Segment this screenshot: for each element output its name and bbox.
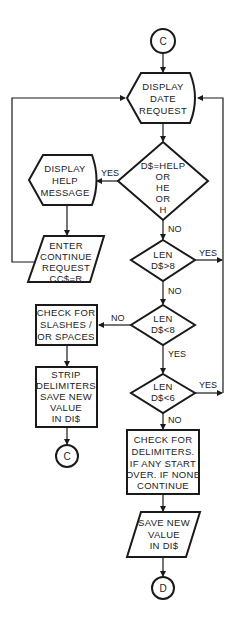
len-lt-8-decision: LEN D$<8 [131,305,195,345]
node-text: SAVE NEW [40,391,92,402]
check-delimiters-node: CHECK FOR DELIMITERS. IF ANY START OVER.… [126,430,201,494]
node-text: SLASHES / [40,319,92,330]
node-text: IN DI$ [52,413,81,424]
node-text: LEN [153,381,172,392]
display-help-message-node: DISPLAY HELP MESSAGE [29,155,97,205]
node-text: VALUE [148,529,180,540]
node-text: D$<8 [151,324,175,335]
node-text: CONTINUE [137,480,189,491]
node-text: OR [156,171,171,182]
flowchart-diagram: C DISPLAY DATE REQUEST D$=HELP OR HE OR … [0,0,247,620]
node-text: DELIMITERS [36,380,96,391]
node-text: LEN [153,313,172,324]
connector-label: D [159,583,166,594]
strip-delimiters-node: STRIP DELIMITERS SAVE NEW VALUE IN DI$ [36,367,97,427]
edge-label-no: NO [111,313,125,323]
edge-label-yes: YES [168,349,186,359]
connector-label: C [63,451,70,462]
connector-label: C [159,36,166,47]
connector-c-start: C [151,29,175,53]
node-text: DELIMITERS. [132,446,195,457]
node-text: OVER. IF NONE [126,469,201,480]
node-text: DISPLAY [44,163,86,174]
node-text: ENTER [49,240,83,251]
edge-label-no: NO [168,415,182,425]
node-text: D$=HELP [141,160,186,171]
edge-label-yes: YES [199,380,217,390]
edge-label-yes: YES [101,168,119,178]
node-text: CC$=R [50,273,83,284]
node-text: LEN [153,249,172,260]
connector-d-end: D [152,577,174,599]
node-text: HE [156,182,170,193]
node-text: IF ANY START [130,458,196,469]
edge-label-no: NO [168,286,182,296]
node-text: IN DI$ [150,540,179,551]
connector-c-loop: C [56,445,78,467]
loop-back-right-arrow [198,98,223,393]
node-text: STRIP [51,369,80,380]
save-new-value-node: SAVE NEW VALUE IN DI$ [127,512,200,557]
edge-label-no: NO [168,224,182,234]
node-text: CHECK FOR [134,434,193,445]
len-lt-6-decision: LEN D$<6 [131,374,195,413]
node-text: D$>8 [151,260,175,271]
node-text: REQUEST [139,105,187,116]
edge-label-yes: YES [199,248,217,258]
help-check-decision: D$=HELP OR HE OR H [118,142,208,220]
node-text: DISPLAY [142,81,184,92]
node-text: MESSAGE [40,187,89,198]
display-date-request-node: DISPLAY DATE REQUEST [127,73,195,123]
node-text: DATE [150,93,176,104]
node-text: CHECK FOR [37,307,96,318]
node-text: OR [156,193,171,204]
node-text: REQUEST [42,262,90,273]
node-text: D$<6 [151,392,175,403]
check-slashes-node: CHECK FOR SLASHES / OR SPACES [36,305,97,345]
len-gt-8-decision: LEN D$>8 [131,240,195,281]
node-text: HELP [52,175,78,186]
node-text: OR SPACES [37,331,94,342]
enter-continue-request-node: ENTER CONTINUE REQUEST CC$=R [28,236,104,284]
node-text: CONTINUE [40,251,92,262]
node-text: H [159,204,166,215]
node-text: SAVE NEW [138,517,190,528]
node-text: VALUE [50,402,82,413]
